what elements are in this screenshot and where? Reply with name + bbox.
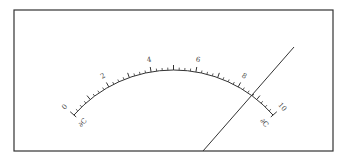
left-end-label: ∂C bbox=[77, 117, 89, 129]
major-tick bbox=[238, 82, 240, 86]
minor-tick bbox=[80, 105, 82, 107]
major-tick bbox=[273, 112, 277, 115]
major-tick bbox=[196, 67, 197, 72]
end-cap bbox=[74, 115, 76, 117]
minor-tick bbox=[228, 80, 229, 82]
minor-tick bbox=[269, 109, 271, 111]
major-tick bbox=[150, 67, 151, 72]
scale-label: 0 bbox=[60, 103, 69, 112]
minor-tick bbox=[113, 82, 114, 84]
scale-label: 4 bbox=[146, 55, 152, 64]
minor-tick bbox=[93, 94, 94, 96]
major-tick bbox=[257, 96, 260, 100]
minor-tick bbox=[103, 88, 104, 90]
minor-tick bbox=[123, 77, 124, 79]
minor-tick bbox=[261, 101, 263, 103]
end-cap bbox=[271, 115, 273, 117]
meter-diagram: 0246810∂C∂C bbox=[0, 0, 346, 162]
minor-tick bbox=[223, 77, 224, 79]
scale-label: 6 bbox=[195, 56, 201, 65]
minor-tick bbox=[233, 82, 234, 84]
scale-label: 10 bbox=[276, 101, 288, 113]
major-tick bbox=[218, 73, 220, 78]
minor-tick bbox=[76, 109, 78, 111]
minor-tick bbox=[84, 101, 86, 103]
minor-tick bbox=[201, 71, 202, 73]
major-tick bbox=[70, 112, 74, 115]
minor-tick bbox=[118, 80, 119, 82]
meter-svg: 0246810∂C∂C bbox=[0, 0, 346, 162]
major-tick bbox=[128, 73, 130, 78]
minor-tick bbox=[145, 71, 146, 73]
right-end-label: ∂C bbox=[258, 117, 270, 129]
major-tick bbox=[106, 82, 108, 86]
minor-tick bbox=[248, 91, 249, 93]
minor-tick bbox=[243, 88, 244, 90]
minor-tick bbox=[98, 91, 99, 93]
meter-needle bbox=[203, 47, 294, 151]
scale-label: 8 bbox=[240, 72, 248, 81]
minor-tick bbox=[265, 105, 267, 107]
meter-frame bbox=[14, 10, 333, 151]
scale-label: 2 bbox=[99, 72, 107, 81]
major-tick bbox=[87, 96, 90, 100]
